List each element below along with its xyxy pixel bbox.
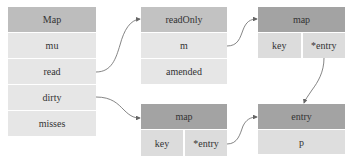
read-map-key: key [258,33,303,58]
arrow-read-to-readonly [96,19,140,72]
field-misses: misses [8,111,96,136]
map-struct-box: Map mu read dirty misses [8,7,96,136]
arrow-dirty-entry-to-entry [227,117,257,144]
field-dirty: dirty [8,85,96,111]
dirty-map-entry-pointer: *entry [185,130,227,156]
arrow-m-to-read-map [227,19,257,46]
field-read: read [8,59,96,85]
map-struct-title: Map [8,7,96,33]
field-p: p [258,130,345,154]
field-amended: amended [141,59,227,84]
entry-box: entry p [258,104,345,154]
field-mu: mu [8,33,96,59]
read-map-entry-pointer: *entry [303,33,346,58]
dirty-map-box: map key *entry [141,104,227,156]
read-only-box: readOnly m amended [141,7,227,84]
field-m: m [141,33,227,59]
read-map-title: map [258,7,345,33]
arrow-entry-pointer-to-entry [304,58,324,103]
dirty-map-key: key [141,130,185,156]
read-only-title: readOnly [141,7,227,33]
arrow-dirty-to-map [96,97,140,118]
dirty-map-title: map [141,104,227,130]
read-map-box: map key *entry [258,7,345,58]
entry-title: entry [258,104,345,130]
